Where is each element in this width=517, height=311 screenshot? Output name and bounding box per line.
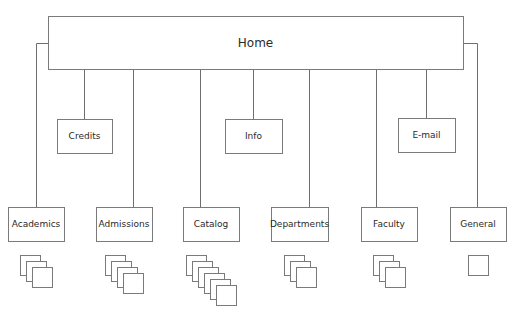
utility-nodes: CreditsInfoE-mail bbox=[58, 119, 456, 154]
node-label: E-mail bbox=[412, 130, 440, 140]
section-nodes: AcademicsAdmissionsCatalogDepartmentsFac… bbox=[9, 208, 507, 242]
node-label: Home bbox=[238, 36, 273, 50]
node-general[interactable]: General bbox=[451, 208, 507, 242]
node-label: Departments bbox=[270, 219, 329, 229]
page-icon bbox=[386, 268, 406, 288]
connector-line bbox=[37, 44, 49, 208]
site-map-diagram: Home CreditsInfoE-mail AcademicsAdmissio… bbox=[0, 0, 517, 311]
node-label: Info bbox=[245, 131, 263, 141]
node-e-mail[interactable]: E-mail bbox=[399, 119, 456, 153]
page-icon bbox=[217, 286, 237, 306]
node-home[interactable]: Home bbox=[49, 17, 464, 70]
node-catalog[interactable]: Catalog bbox=[184, 208, 240, 242]
page-stacks bbox=[21, 256, 489, 306]
node-label: Faculty bbox=[373, 219, 406, 229]
page-stack-icon bbox=[285, 256, 317, 288]
page-icon bbox=[469, 256, 489, 276]
node-label: General bbox=[460, 219, 495, 229]
node-departments[interactable]: Departments bbox=[270, 208, 329, 242]
node-label: Admissions bbox=[99, 219, 150, 229]
page-stack-icon bbox=[469, 256, 489, 276]
page-stack-icon bbox=[21, 256, 53, 288]
node-label: Catalog bbox=[194, 219, 229, 229]
node-admissions[interactable]: Admissions bbox=[97, 208, 153, 242]
node-info[interactable]: Info bbox=[226, 120, 283, 154]
page-icon bbox=[297, 268, 317, 288]
node-credits[interactable]: Credits bbox=[58, 120, 113, 154]
page-stack-icon bbox=[187, 256, 237, 306]
connector-line bbox=[463, 44, 478, 208]
page-stack-icon bbox=[374, 256, 406, 288]
node-label: Credits bbox=[69, 131, 101, 141]
node-faculty[interactable]: Faculty bbox=[362, 208, 418, 242]
node-label: Academics bbox=[12, 219, 61, 229]
node-academics[interactable]: Academics bbox=[9, 208, 65, 242]
page-stack-icon bbox=[106, 256, 144, 294]
page-icon bbox=[124, 274, 144, 294]
page-icon bbox=[33, 268, 53, 288]
